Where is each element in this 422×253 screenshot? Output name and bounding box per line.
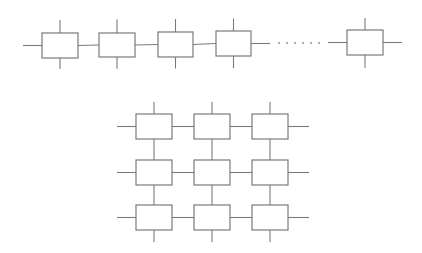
grid-node-box [194, 205, 230, 230]
chain-node-box [158, 32, 193, 57]
grid-node-box [194, 114, 230, 139]
grid-node-box [136, 114, 172, 139]
chain-node-box [216, 31, 251, 56]
ellipsis-dot [310, 42, 312, 44]
chain-link-wire [78, 45, 99, 46]
grid-node-box [252, 114, 288, 139]
chain-link-wire [193, 44, 216, 45]
linear-chain [23, 18, 402, 69]
ellipsis-dot [294, 42, 296, 44]
grid-node-box [136, 160, 172, 185]
chain-node-box [99, 33, 135, 57]
ellipsis-dot [286, 42, 288, 44]
ellipsis-dot [318, 42, 320, 44]
chain-link-wire [135, 45, 158, 46]
ellipsis-dot [278, 42, 280, 44]
grid-node-box [252, 205, 288, 230]
chain-node-box [42, 33, 78, 58]
grid-node-box [252, 160, 288, 185]
diagram-canvas [0, 0, 422, 253]
grid-node-box [194, 160, 230, 185]
ellipsis-dot [302, 42, 304, 44]
grid-mesh [117, 102, 309, 242]
grid-node-box [136, 205, 172, 230]
chain-node-box [347, 30, 383, 55]
